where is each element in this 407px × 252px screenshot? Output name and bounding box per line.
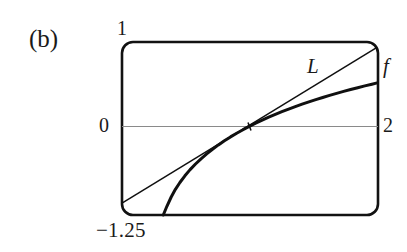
tangent-line-label: L — [307, 56, 319, 77]
y-axis-min-label: −1.25 — [96, 220, 146, 241]
function-curve-label: f — [383, 56, 389, 77]
graph-plot — [0, 0, 407, 252]
y-axis-zero-label: 0 — [99, 115, 109, 135]
x-axis-max-label: 2 — [383, 115, 393, 135]
figure-container: (b) 1 0 2 −1.25 L f — [0, 0, 407, 252]
y-axis-max-label: 1 — [117, 18, 127, 38]
